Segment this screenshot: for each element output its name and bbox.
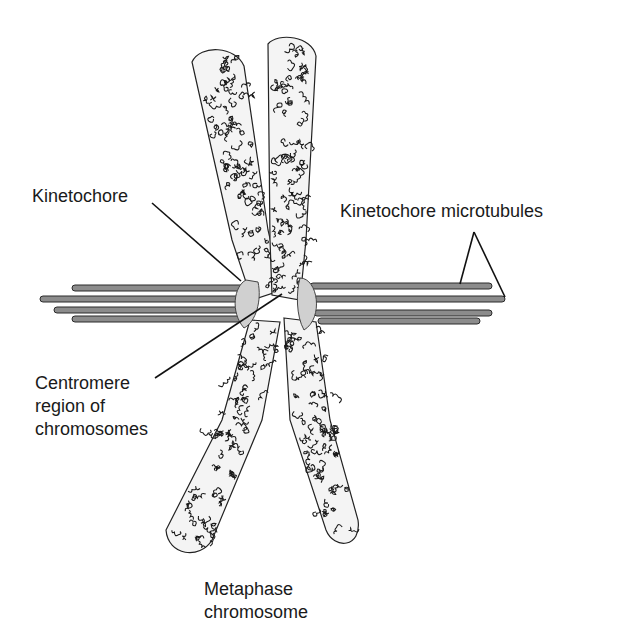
chromatin-fiber-loop [218, 377, 230, 387]
centromere-label-line-1: Centromere [35, 372, 130, 394]
microtubule [72, 316, 244, 322]
microtubule [310, 283, 492, 289]
centromere-label-line-3: chromosomes [35, 418, 148, 440]
centromere-label-line-2: region of [35, 395, 105, 417]
caption-line-2: chromosome [204, 601, 308, 623]
microtubule [314, 310, 492, 316]
microtubule [40, 296, 244, 302]
microtubule [54, 307, 244, 313]
left-kinetochore-microtubules [40, 285, 244, 322]
metaphase-chromosome-diagram [0, 0, 620, 628]
microtubules-leader-line-a [460, 232, 474, 284]
kinetochore-label: Kinetochore [32, 185, 128, 207]
right-kinetochore-microtubules [310, 283, 505, 324]
microtubule [72, 285, 244, 291]
caption-line-1: Metaphase [204, 578, 293, 600]
microtubule [318, 318, 480, 324]
chromatin-fiber-loop [323, 355, 328, 362]
microtubule [310, 296, 505, 302]
chromatids [166, 37, 358, 552]
chromatid-left-lower [166, 320, 280, 553]
kinetochore-microtubules-label: Kinetochore microtubules [340, 200, 543, 222]
chromatin-fiber-loop [330, 393, 341, 403]
